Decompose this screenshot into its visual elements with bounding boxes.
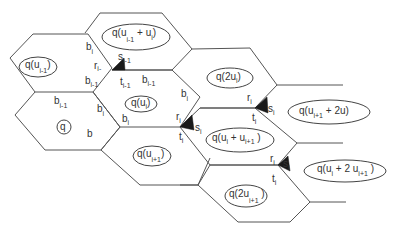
hexagonal-lattice-diagram: q(ui-1) q(ui-1 + ui) q q(ui) q(2ui) q(ui…: [0, 0, 394, 233]
label-r-i-2: ri: [247, 92, 252, 105]
cell-label-b: q(ui-1 + ui): [102, 24, 170, 50]
hex-cell-b: [85, 13, 192, 70]
svg-text:q(ui + 2 ui+1 ): q(ui + 2 ui+1 ): [317, 163, 374, 177]
label-b-i-minus-1-a: bi-1: [85, 75, 98, 88]
label-b-i-minus-1-c: bi-1: [54, 95, 67, 109]
label-t-i-1: ti: [179, 131, 184, 144]
svg-text:q(ui-1): q(ui-1): [25, 59, 51, 74]
junction-triangle-i-b: [255, 97, 268, 113]
cell-label-e: q(2ui): [207, 68, 253, 88]
svg-text:q(ui+1): q(ui+1): [137, 148, 164, 163]
cell-label-g: q(ui + ui+1 ): [206, 128, 274, 152]
label-t-i-2: ti: [252, 112, 257, 125]
label-r-i-minus-1: ri-: [94, 60, 102, 72]
cell-label-h: q(2ui+1 ): [225, 185, 267, 207]
label-b-i-d: bi: [181, 88, 189, 102]
cell-label-d: q(ui): [125, 96, 157, 112]
cell-label-f: q(ui+1): [133, 146, 171, 166]
svg-text:q(2ui+1 ): q(2ui+1 ): [229, 188, 265, 204]
label-s-i-2: si: [268, 103, 275, 116]
label-s-i-1: si: [195, 122, 202, 135]
cell-label-j: q(ui + 2 ui+1 ): [304, 160, 386, 182]
label-r-i-1: ri: [176, 111, 181, 124]
label-b-i-prime: bi: [122, 113, 130, 126]
hex-cell-h: [198, 165, 310, 222]
svg-text:q(2ui): q(2ui): [216, 71, 241, 84]
label-t-i-3: ti: [272, 173, 277, 186]
cell-label-c: q: [57, 120, 71, 134]
svg-text:q(ui-1 + ui): q(ui-1 + ui): [112, 27, 156, 43]
svg-text:q(ui): q(ui): [131, 97, 150, 110]
cell-label-i: q(ui+1 + 2u): [288, 100, 370, 124]
label-r-i-3: ri: [270, 153, 275, 166]
svg-text:q(ui + ui+1 ): q(ui + ui+1 ): [212, 132, 261, 145]
label-b-i-top: bi: [86, 41, 94, 55]
cell-label-a: q(ui-1): [19, 57, 57, 77]
svg-text:q(ui+1 + 2u): q(ui+1 + 2u): [299, 105, 349, 119]
svg-text:q: q: [60, 121, 66, 132]
label-b-i-minus-1-b: bi-1: [142, 74, 155, 87]
label-b: b: [87, 128, 93, 139]
label-t-i-minus-1: ti-1: [120, 76, 131, 89]
